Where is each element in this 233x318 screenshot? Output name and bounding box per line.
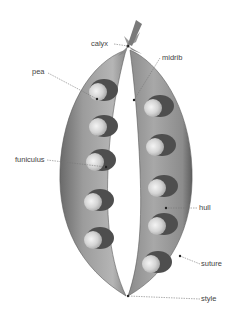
label-funiculus: funiculus (15, 156, 45, 164)
label-calyx: calyx (91, 40, 108, 48)
label-suture: suture (201, 260, 222, 268)
label-hull: hull (199, 204, 211, 212)
label-midrib: midrib (162, 54, 182, 62)
label-style: style (201, 295, 216, 303)
label-pea: pea (32, 68, 45, 76)
